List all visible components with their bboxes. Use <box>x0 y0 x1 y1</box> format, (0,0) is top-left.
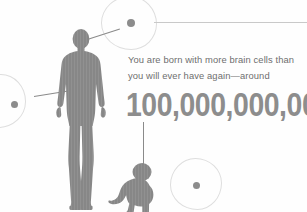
crawling-baby-silhouette <box>108 160 160 212</box>
brain-cell-callout-bottom <box>170 158 222 210</box>
cell-nucleus-bottom <box>193 182 200 189</box>
brain-cells-infographic: You are born with more brain cells than … <box>0 0 307 212</box>
adult-human-silhouette <box>50 28 112 212</box>
body-text: You are born with more brain cells than … <box>128 52 307 83</box>
big-number-value: 100,000,000,000 <box>126 88 307 121</box>
connector-top-cell-to-right-edge <box>154 22 307 23</box>
cell-nucleus-left <box>11 101 18 108</box>
cell-nucleus-top <box>127 19 135 27</box>
brain-cell-callout-left <box>0 74 26 128</box>
